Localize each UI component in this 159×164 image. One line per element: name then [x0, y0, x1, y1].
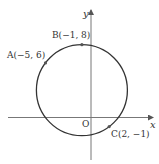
point-c-label: C(2, −1) [111, 129, 150, 139]
y-axis-label: y [82, 8, 89, 19]
point-b [80, 43, 83, 46]
point-c [108, 125, 111, 128]
origin-label: O [82, 119, 89, 129]
point-b-label: B(−1, 8) [52, 30, 90, 40]
coordinate-diagram: y x O A(−5, 6) B(−1, 8) C(2, −1) [0, 0, 159, 164]
x-axis-label: x [150, 119, 156, 130]
point-a [44, 61, 47, 64]
point-a-label: A(−5, 6) [6, 50, 45, 60]
